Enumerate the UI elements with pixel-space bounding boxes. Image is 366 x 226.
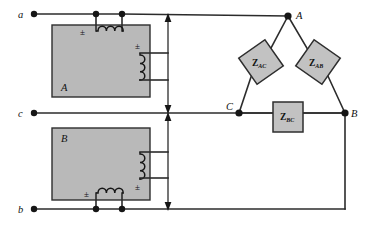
- impedance-zbc-subscript: BC: [285, 117, 295, 123]
- source-block-b-label: B: [61, 133, 68, 144]
- impedance-zac-subscript: AC: [257, 63, 267, 69]
- terminal-label-c: c: [18, 108, 23, 119]
- load-node-label-C: C: [226, 101, 234, 112]
- node-dot-terminal-b: [31, 206, 37, 212]
- circuit-canvas: ± ± ± ±: [0, 0, 366, 226]
- polarity-mark-b-secondary: ±: [135, 182, 140, 192]
- wire-Zab-to-B: [327, 74, 345, 113]
- circuit-diagram: ± ± ± ±: [0, 0, 366, 226]
- node-dot-a-primary-left: [93, 11, 99, 17]
- node-dot-terminal-a: [31, 11, 37, 17]
- polarity-mark-b-primary: ±: [84, 189, 89, 199]
- node-dot-b-primary-right: [119, 206, 125, 212]
- source-block-a-label: A: [60, 82, 68, 93]
- lead-a-to-node-A: [122, 14, 288, 16]
- node-dot-load-B: [341, 109, 348, 116]
- load-node-label-A: A: [295, 10, 303, 21]
- terminal-label-a: a: [18, 9, 23, 20]
- node-dot-load-C: [235, 109, 242, 116]
- node-dot-a-primary-right: [119, 11, 125, 17]
- node-dot-b-primary-left: [93, 206, 99, 212]
- wire-A-to-Zab: [288, 16, 308, 50]
- load-node-label-B: B: [351, 108, 358, 119]
- wire-Zac-to-C: [239, 74, 252, 113]
- polarity-mark-a-primary: ±: [80, 27, 85, 37]
- node-dot-terminal-c: [31, 110, 37, 116]
- terminal-label-b: b: [18, 204, 23, 215]
- polarity-mark-a-secondary: ±: [135, 41, 140, 51]
- impedance-zab-subscript: AB: [314, 63, 323, 69]
- impedance-zab: [296, 40, 341, 85]
- impedance-zac: [239, 40, 284, 85]
- wire-A-to-Zac: [270, 16, 288, 50]
- node-dot-load-A: [284, 12, 291, 19]
